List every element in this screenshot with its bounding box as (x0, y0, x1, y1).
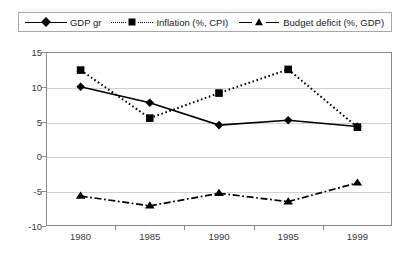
data-point-diamond (76, 83, 85, 92)
data-point-diamond (215, 121, 224, 130)
data-point-square (146, 114, 154, 122)
data-point-square (215, 89, 223, 97)
data-point-triangle (353, 178, 363, 185)
data-point-triangle (76, 192, 86, 199)
data-point-square (77, 66, 85, 74)
chart-container: GDP gr Inflation (%, CPI) Budget deficit… (0, 0, 409, 260)
data-point-diamond (146, 99, 155, 108)
data-series-layer (0, 0, 409, 260)
data-point-diamond (284, 116, 293, 125)
data-point-square (354, 123, 362, 131)
data-point-square (284, 66, 292, 74)
series-line (81, 69, 358, 127)
data-point-triangle (214, 189, 224, 196)
series-budget-deficit-gdp (76, 178, 362, 208)
